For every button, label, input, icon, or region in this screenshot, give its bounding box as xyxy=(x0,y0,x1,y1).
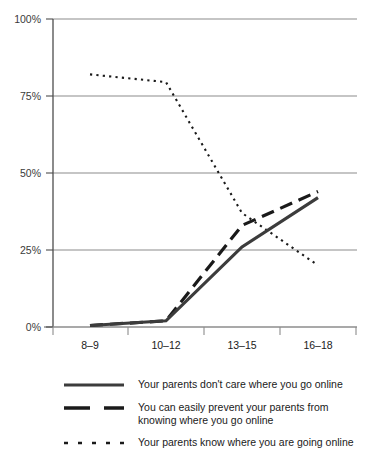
y-tick-label-0: 0% xyxy=(26,321,41,333)
chart-svg: 100% 75% 50% 25% 0% 8–9 10–12 13–15 16–1… xyxy=(0,0,371,360)
y-tick-marks xyxy=(46,19,53,327)
legend-swatch-dashed-line xyxy=(63,401,125,415)
series-line-solid xyxy=(90,198,318,326)
y-tick-label-25: 25% xyxy=(20,244,41,256)
x-tick-label-16-18: 16–18 xyxy=(303,339,332,351)
legend-item-dashed: You can easily prevent your parents from… xyxy=(0,401,371,427)
gridlines xyxy=(53,19,357,250)
legend-label-solid: Your parents don't care where you go onl… xyxy=(138,378,343,391)
x-tick-marks xyxy=(53,327,356,335)
legend-item-dotted: Your parents know where you are going on… xyxy=(0,436,371,450)
y-tick-label-75: 75% xyxy=(20,90,41,102)
x-tick-label-13-15: 13–15 xyxy=(227,339,256,351)
y-tick-label-50: 50% xyxy=(20,167,41,179)
legend-item-solid: Your parents don't care where you go onl… xyxy=(0,378,371,392)
chart-legend: Your parents don't care where you go onl… xyxy=(0,378,371,459)
legend-label-dotted: Your parents know where you are going on… xyxy=(138,436,354,449)
series-line-dotted xyxy=(90,74,318,265)
legend-label-dashed: You can easily prevent your parents from… xyxy=(138,401,328,427)
legend-swatch-dotted-line xyxy=(63,436,125,450)
x-tick-label-8-9: 8–9 xyxy=(81,339,99,351)
chart-figure: 100% 75% 50% 25% 0% 8–9 10–12 13–15 16–1… xyxy=(0,0,371,465)
x-tick-label-10-12: 10–12 xyxy=(151,339,180,351)
plot-area: 100% 75% 50% 25% 0% 8–9 10–12 13–15 16–1… xyxy=(0,0,371,360)
legend-swatch-solid-line xyxy=(63,378,125,392)
y-tick-label-100: 100% xyxy=(14,13,41,25)
series-line-dashed xyxy=(90,192,318,326)
